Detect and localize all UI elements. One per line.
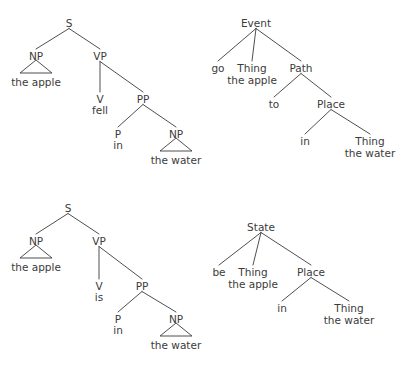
tree-node-pleaf: in bbox=[113, 140, 123, 152]
tree-node-np4leaf: the water bbox=[151, 340, 202, 352]
tree-node-line: Event bbox=[241, 17, 271, 29]
tree-node-line: S bbox=[66, 17, 73, 29]
tree-node-np3: NP bbox=[29, 236, 43, 248]
tree-node-thing2: Thingthe water bbox=[345, 136, 396, 159]
tree-node-in: in bbox=[300, 136, 310, 148]
tree-node-line: S bbox=[65, 202, 72, 214]
tree-edge bbox=[142, 292, 176, 313]
tree-diagram-figure: SNPthe appleVPVfellPPPinNPthe waterEvent… bbox=[0, 0, 407, 369]
tree-edge bbox=[274, 74, 301, 98]
tree-node-thing3: Thingthe apple bbox=[228, 267, 278, 290]
tree-node-line: the apple bbox=[228, 278, 278, 290]
tree-node-vp: VP bbox=[93, 51, 107, 63]
tree-node-place2: Place bbox=[297, 267, 325, 279]
tree-node-vleaf: fell bbox=[92, 105, 108, 117]
tree-node-line: Thing bbox=[355, 135, 384, 147]
tree-node-line: Place bbox=[317, 98, 345, 110]
tree-edge bbox=[36, 214, 68, 235]
tree-node-line: to bbox=[269, 98, 280, 110]
tree-edge bbox=[118, 105, 143, 128]
tree-node-line: Thing bbox=[334, 302, 363, 314]
tree-edge bbox=[252, 29, 256, 62]
tree-node-thing1: Thingthe apple bbox=[227, 63, 277, 86]
tree-node-state: State bbox=[247, 222, 275, 234]
tree-node-p2leaf: in bbox=[113, 325, 123, 337]
tree-node-line: be bbox=[212, 266, 225, 278]
tree-node-line: in bbox=[113, 324, 123, 336]
tree-node-line: go bbox=[211, 62, 224, 74]
tree-edge bbox=[301, 74, 331, 98]
tree-edge bbox=[261, 233, 311, 266]
tree-node-line: Thing bbox=[237, 62, 266, 74]
tree-node-line: NP bbox=[29, 50, 43, 62]
tree-node-in2: in bbox=[277, 303, 287, 315]
tree-node-np4: NP bbox=[169, 314, 183, 326]
tree-node-path: Path bbox=[289, 63, 312, 75]
tree-node-pp2: PP bbox=[136, 281, 149, 293]
tree-node-pp: PP bbox=[137, 94, 150, 106]
tree-node-thing4: Thingthe water bbox=[324, 303, 375, 326]
tree-edge bbox=[219, 233, 261, 266]
tree-node-line: in bbox=[277, 302, 287, 314]
tree-node-np1leaf: the apple bbox=[11, 77, 61, 89]
tree-node-line: NP bbox=[29, 235, 43, 247]
tree-node-np2leaf: the water bbox=[151, 155, 202, 167]
tree-node-vp2: VP bbox=[92, 236, 106, 248]
tree-node-v2leaf: is bbox=[95, 292, 103, 304]
tree-node-line: VP bbox=[93, 50, 107, 62]
tree-edge bbox=[99, 247, 142, 280]
tree-edge bbox=[100, 62, 143, 93]
tree-node-line: the water bbox=[151, 339, 202, 351]
tree-edge bbox=[305, 110, 331, 135]
tree-node-line: Thing bbox=[238, 266, 267, 278]
tree-node-np3leaf: the apple bbox=[11, 262, 61, 274]
tree-node-place: Place bbox=[317, 99, 345, 111]
tree-node-line: in bbox=[300, 135, 310, 147]
tree-edge bbox=[68, 214, 99, 235]
tree-node-line: NP bbox=[169, 313, 183, 325]
tree-node-line: VP bbox=[92, 235, 106, 247]
tree-node-line: in bbox=[113, 139, 123, 151]
tree-node-np2: NP bbox=[169, 129, 183, 141]
tree-edge bbox=[118, 292, 142, 313]
tree-edge bbox=[69, 29, 100, 50]
tree-node-line: Place bbox=[297, 266, 325, 278]
tree-node-line: State bbox=[247, 221, 275, 233]
tree-edge bbox=[331, 110, 370, 135]
tree-node-line: the water bbox=[151, 154, 202, 166]
tree-node-line: Path bbox=[289, 62, 312, 74]
tree-edge bbox=[218, 29, 256, 62]
tree-node-s: S bbox=[66, 18, 73, 30]
tree-node-line: the water bbox=[345, 147, 396, 159]
tree-edge bbox=[256, 29, 301, 62]
tree-edge bbox=[143, 105, 176, 128]
tree-node-event: Event bbox=[241, 18, 271, 30]
tree-edge bbox=[311, 278, 349, 302]
tree-node-line: is bbox=[95, 291, 103, 303]
tree-node-line: NP bbox=[169, 128, 183, 140]
tree-node-go: go bbox=[211, 63, 224, 75]
tree-node-to: to bbox=[269, 99, 280, 111]
tree-node-line: PP bbox=[136, 280, 149, 292]
tree-node-line: PP bbox=[137, 93, 150, 105]
tree-node-line: fell bbox=[92, 104, 108, 116]
tree-node-line: the apple bbox=[11, 76, 61, 88]
tree-node-s2: S bbox=[65, 203, 72, 215]
tree-node-be: be bbox=[212, 267, 225, 279]
tree-edge bbox=[282, 278, 311, 302]
tree-node-np1: NP bbox=[29, 51, 43, 63]
tree-edge bbox=[36, 29, 69, 50]
tree-node-line: the apple bbox=[11, 261, 61, 273]
tree-node-line: the apple bbox=[227, 74, 277, 86]
tree-node-line: the water bbox=[324, 314, 375, 326]
